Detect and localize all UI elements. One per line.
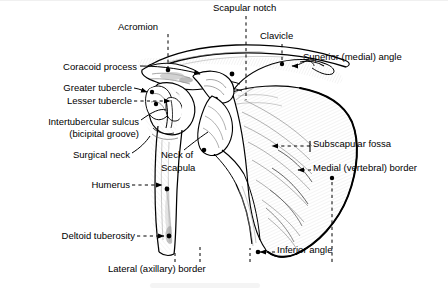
anatomy-figure: Acromion Scapular notch Clavicle Superio… <box>0 0 448 293</box>
label-subscapular-fossa: Subscapular fossa <box>313 139 391 149</box>
label-medial-vertebral-border: Medial (vertebral) border <box>313 163 417 173</box>
label-humerus: Humerus <box>0 180 130 190</box>
leader-greater-tubercle <box>134 88 147 92</box>
label-acromion: Acromion <box>118 22 158 32</box>
subscapular-fossa-shading <box>230 84 362 264</box>
label-deltoid-tuberosity: Deltoid tuberosity <box>0 231 135 241</box>
label-lesser-tubercle: Lesser tubercle <box>0 96 132 106</box>
label-inferior-angle: Inferior angle <box>277 245 332 255</box>
label-clavicle: Clavicle <box>260 31 293 41</box>
label-bicipital-groove: (bicipital groove) <box>0 129 139 139</box>
label-superior-medial-angle: Superior (medial) angle <box>303 52 402 62</box>
label-coracoid-process: Coracoid process <box>0 62 137 72</box>
label-lateral-axillary-border: Lateral (axillary) border <box>108 264 206 274</box>
label-neck-of-scapula-line2: Scapula <box>161 163 195 173</box>
label-greater-tubercle: Greater tubercle <box>0 83 132 93</box>
scapula-body <box>230 84 362 264</box>
label-intertubercular-sulcus: Intertubercular sulcus <box>0 117 139 127</box>
label-neck-of-scapula-line1: Neck of <box>161 150 193 160</box>
label-surgical-neck: Surgical neck <box>0 150 130 160</box>
label-scapular-notch: Scapular notch <box>213 3 276 13</box>
